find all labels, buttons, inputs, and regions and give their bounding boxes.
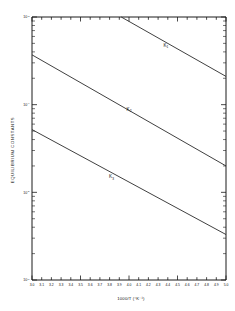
x-tick-label: 3.8 (107, 283, 112, 287)
x-tick-label: 3.2 (49, 283, 54, 287)
y-axis-tick-labels: 10-610-510-410-3 (23, 15, 30, 283)
curve-label-k3: K3 (109, 174, 114, 180)
equilibrium-constants-chart: 3.03.13.23.33.43.53.63.73.83.94.04.14.24… (0, 0, 235, 311)
y-tick-label: 10-4 (23, 102, 30, 107)
x-tick-label: 4.7 (195, 283, 200, 287)
data-curves (32, 17, 226, 235)
x-tick-label: 3.9 (117, 283, 122, 287)
x-tick-label: 4.1 (136, 283, 141, 287)
curve-k3 (32, 130, 226, 235)
x-tick-label: 4.8 (204, 283, 209, 287)
x-axis-title: 1000/T (°K⁻¹) (117, 296, 145, 301)
curve-labels: K1K2K3 (109, 43, 168, 181)
x-tick-label: 3.3 (59, 283, 64, 287)
y-tick-label: 10-6 (23, 278, 30, 283)
x-tick-label: 4.6 (185, 283, 190, 287)
x-tick-label: 4.3 (156, 283, 161, 287)
figure-canvas: 3.03.13.23.33.43.53.63.73.83.94.04.14.24… (0, 0, 235, 311)
y-axis-title: EQUILIBRIUM CONSTANTS (10, 117, 15, 184)
x-axis-tick-labels: 3.03.13.23.33.43.53.63.73.83.94.04.14.24… (30, 283, 229, 287)
x-tick-label: 4.2 (146, 283, 151, 287)
curve-label-k2: K2 (127, 107, 132, 113)
x-tick-label: 3.1 (39, 283, 44, 287)
x-tick-label: 5.0 (224, 283, 229, 287)
x-tick-label: 3.7 (98, 283, 103, 287)
axis-frame (32, 17, 226, 280)
x-axis-ticks (32, 17, 226, 280)
x-tick-label: 3.4 (68, 283, 73, 287)
x-tick-label: 3.5 (78, 283, 83, 287)
x-tick-label: 3.6 (88, 283, 93, 287)
x-tick-label: 4.5 (175, 283, 180, 287)
curve-k1 (121, 17, 226, 76)
x-tick-label: 3.0 (30, 283, 35, 287)
y-tick-label: 10-3 (23, 15, 30, 20)
x-tick-label: 4.0 (127, 283, 132, 287)
x-tick-label: 4.9 (214, 283, 219, 287)
y-axis-ticks (32, 17, 226, 280)
y-tick-label: 10-5 (23, 190, 30, 195)
x-tick-label: 4.4 (165, 283, 170, 287)
